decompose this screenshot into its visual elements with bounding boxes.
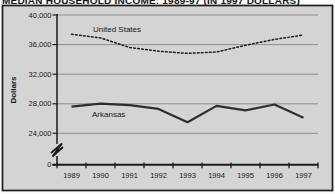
y-tick-label-32000: 32,000 [29,70,52,79]
y-tick-label-28000: 28,000 [29,99,52,108]
x-tick-label-1991: 1991 [121,171,138,180]
x-tick-label-1996: 1996 [266,171,283,180]
x-tick-label-1989: 1989 [63,171,80,180]
x-tick-label-1995: 1995 [237,171,254,180]
median-household-income-chart: MEDIAN HOUSEHOLD INCOME: 1989-97 (IN 199… [0,0,335,194]
arkansas-series-label: Arkansas [92,110,125,119]
x-tick-label-1992: 1992 [150,171,167,180]
y-axis-title: Dollars [9,76,18,104]
y-tick-label-24000: 24,000 [29,129,52,138]
x-tick-label-1994: 1994 [208,171,225,180]
x-tick-label-1997: 1997 [295,171,312,180]
us-series-label: United States [93,25,141,34]
y-tick-label-36000: 36,000 [29,40,52,49]
y-tick-label-zero: 0 [47,160,51,169]
y-tick-label-40000: 40,000 [29,11,52,20]
x-tick-label-1993: 1993 [179,171,196,180]
x-tick-label-1990: 1990 [92,171,109,180]
figure-frame [3,6,333,191]
x-tick-labels: 1989 1990 1991 1992 1993 1994 1995 1996 … [63,171,312,180]
